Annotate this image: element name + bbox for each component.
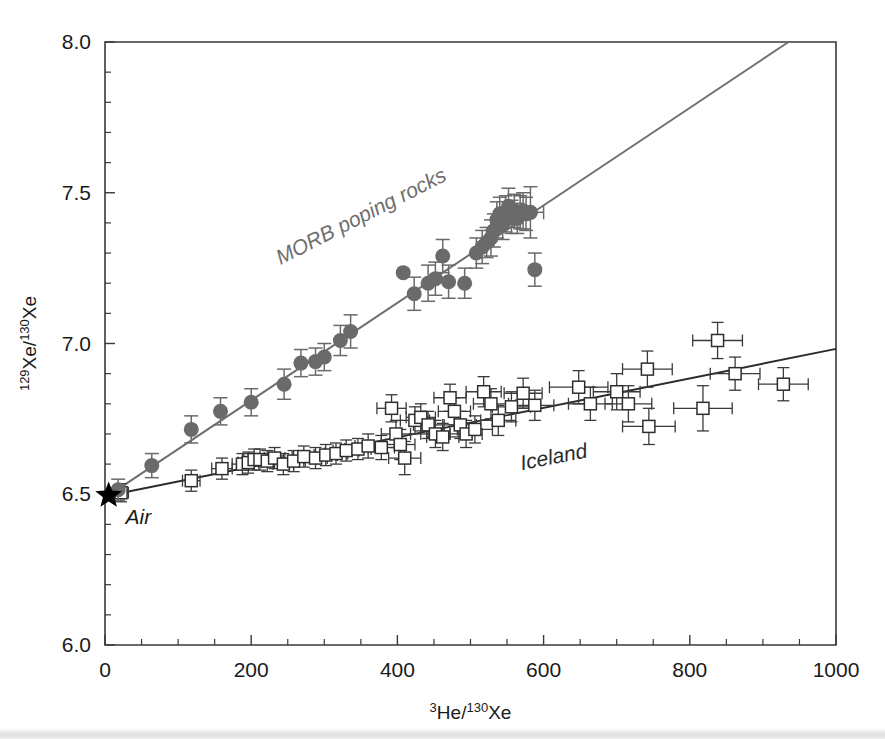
morb-data-point <box>184 422 199 437</box>
x-tick-label: 400 <box>380 658 415 681</box>
iceland-data-point <box>386 402 398 414</box>
iceland-data-point <box>729 368 741 380</box>
morb-data-point <box>396 265 411 280</box>
figure-container: 6.06.57.07.58.002004006008001000 MORB po… <box>0 0 885 739</box>
morb-data-point <box>293 356 308 371</box>
morb-data-point <box>527 262 542 277</box>
x-tick-label: 800 <box>672 658 707 681</box>
iceland-data-point <box>611 386 623 398</box>
x-tick-label: 0 <box>99 658 111 681</box>
iceland-data-point <box>697 402 709 414</box>
iceland-data-point <box>375 442 387 454</box>
morb-data-point <box>213 404 228 419</box>
morb-data-point <box>407 286 422 301</box>
y-tick-label: 8.0 <box>62 30 91 53</box>
iceland-data-point <box>362 440 374 452</box>
iceland-data-point <box>448 405 460 417</box>
x-tick-label: 200 <box>234 658 269 681</box>
iceland-data-point <box>641 363 653 375</box>
morb-data-point <box>343 324 358 339</box>
iceland-data-point <box>216 463 228 475</box>
y-tick-label: 6.5 <box>62 482 91 505</box>
morb-data-point <box>523 205 538 220</box>
y-tick-label: 6.0 <box>62 633 91 656</box>
morb-data-point <box>277 377 292 392</box>
iceland-data-point <box>505 401 517 413</box>
morb-data-point <box>144 458 159 473</box>
iceland-data-point <box>584 398 596 410</box>
morb-data-point <box>317 350 332 365</box>
scatter-plot-canvas: 6.06.57.07.58.002004006008001000 MORB po… <box>0 0 885 739</box>
iceland-data-point <box>478 386 490 398</box>
iceland-data-point <box>643 420 655 432</box>
iceland-data-point <box>777 378 789 390</box>
iceland-data-point <box>394 439 406 451</box>
iceland-data-point <box>573 381 585 393</box>
iceland-data-point <box>298 451 310 463</box>
x-tick-label: 1000 <box>813 658 860 681</box>
morb-data-point <box>244 395 259 410</box>
y-tick-label: 7.0 <box>62 332 91 355</box>
iceland-data-point <box>517 387 529 399</box>
y-tick-label: 7.5 <box>62 181 91 204</box>
morb-data-point <box>428 271 443 286</box>
iceland-data-point <box>529 399 541 411</box>
morb-data-point <box>441 274 456 289</box>
iceland-data-point <box>485 398 497 410</box>
x-tick-label: 600 <box>526 658 561 681</box>
iceland-data-point <box>340 445 352 457</box>
iceland-data-point <box>399 452 411 464</box>
iceland-data-point <box>712 334 724 346</box>
iceland-data-point <box>492 414 504 426</box>
iceland-data-point <box>185 475 197 487</box>
morb-data-point <box>457 276 472 291</box>
iceland-data-point <box>437 431 449 443</box>
plot-background <box>0 0 885 739</box>
air-label: Air <box>123 505 152 528</box>
morb-data-point <box>435 249 450 264</box>
iceland-data-point <box>622 398 634 410</box>
iceland-data-point <box>444 392 456 404</box>
scan-artifact-band <box>0 728 885 739</box>
iceland-data-point <box>469 423 481 435</box>
